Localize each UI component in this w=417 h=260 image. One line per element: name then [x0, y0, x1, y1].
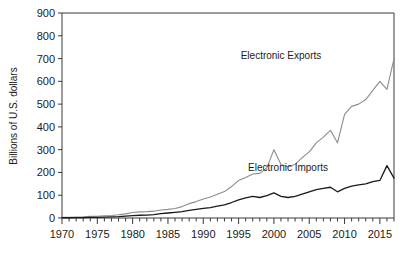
- x-tick-label: 2015: [368, 228, 392, 240]
- y-tick-label: 400: [37, 121, 55, 133]
- y-tick-label: 500: [37, 98, 55, 110]
- y-axis-title: Billions of U.S. dollars: [8, 67, 19, 164]
- x-tick-label: 1985: [156, 228, 180, 240]
- y-tick-label: 600: [37, 75, 55, 87]
- x-tick-label: 1975: [85, 228, 109, 240]
- chart-container: Billions of U.S. dollars 010020030040050…: [0, 0, 417, 260]
- series-label: Electronic Imports: [248, 162, 328, 173]
- y-tick-label: 800: [37, 30, 55, 42]
- y-tick-label: 700: [37, 53, 55, 65]
- x-tick-label: 2005: [297, 228, 321, 240]
- x-tick-label: 1980: [120, 228, 144, 240]
- x-tick-label: 1990: [191, 228, 215, 240]
- line-chart: Billions of U.S. dollars 010020030040050…: [0, 0, 417, 260]
- x-tick-label: 1970: [50, 228, 74, 240]
- x-tick-label: 2000: [262, 228, 286, 240]
- y-tick-label: 300: [37, 144, 55, 156]
- y-axis-title-label: Billions of U.S. dollars: [8, 67, 19, 164]
- y-tick-label: 900: [37, 7, 55, 19]
- chart-background: [0, 0, 417, 260]
- y-tick-label: 100: [37, 189, 55, 201]
- x-tick-label: 1995: [226, 228, 250, 240]
- y-tick-label: 200: [37, 166, 55, 178]
- series-label: Electronic Exports: [241, 50, 322, 61]
- x-tick-label: 2010: [332, 228, 356, 240]
- y-tick-label: 0: [49, 212, 55, 224]
